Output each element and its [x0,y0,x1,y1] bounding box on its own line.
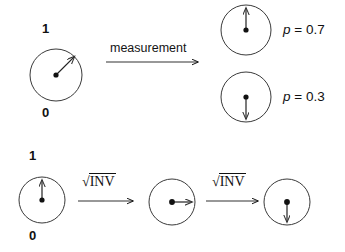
probability-symbol: p [283,22,291,37]
measurement-label: measurement [110,42,186,55]
start-qubit-label-one: 1 [29,149,36,162]
diagram-canvas [0,0,345,252]
state-vector-arrow [56,57,74,75]
source-qubit-circle [30,49,82,101]
probability-label-outcome-zero: p = 0.3 [283,90,325,104]
sqrt-inv-gate-1-label: √INV [82,175,116,189]
probability-value: = 0.3 [294,89,324,104]
probability-symbol: p [283,89,291,104]
quantum-measurement-diagram: 1 0 measurement p = 0.7 p = 0.3 1 0 √INV… [0,0,345,252]
outcome-zero-circle [221,72,271,122]
source-qubit-label-one: 1 [42,22,49,35]
start-qubit-label-zero: 0 [29,229,36,242]
origin-dot [243,94,248,99]
origin-dot [53,72,58,77]
intermediate-qubit-circle [149,179,195,225]
origin-dot [39,197,44,202]
source-qubit-label-zero: 0 [42,106,49,119]
radicand-text: INV [219,173,246,189]
radicand-text: INV [89,173,116,189]
origin-dot [243,27,248,32]
start-qubit-circle [19,177,65,223]
probability-label-outcome-one: p = 0.7 [283,23,325,37]
sqrt-inv-gate-2-label: √INV [212,175,246,189]
origin-dot [169,199,175,205]
outcome-one-circle [221,5,271,55]
final-qubit-circle [264,179,310,225]
probability-value: = 0.7 [294,22,324,37]
origin-dot [284,199,290,205]
